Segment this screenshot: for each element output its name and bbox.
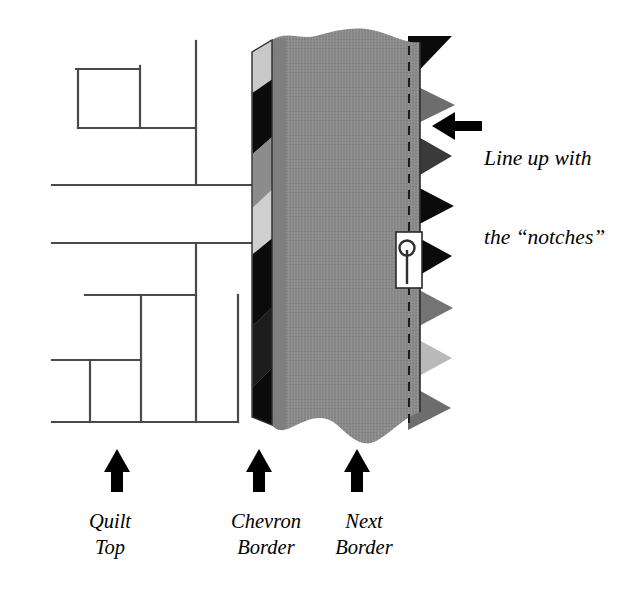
pin-group xyxy=(396,232,422,288)
label-arrows-group xyxy=(104,449,370,492)
callout-arrow-left-icon xyxy=(432,112,482,140)
arrow-up-quilt-top-icon xyxy=(104,449,130,492)
diagram-canvas: Line up with the “notches” Quilt Top Che… xyxy=(0,0,635,590)
label-next-border: Next Border xyxy=(300,508,428,560)
callout-note-line-1: Line up with xyxy=(484,145,605,171)
label-quilt-top: Quilt Top xyxy=(46,508,174,560)
arrow-up-chevron-border-icon xyxy=(246,449,272,492)
callout-note-line-2: the “notches” xyxy=(484,224,605,250)
callout-note: Line up with the “notches” xyxy=(484,93,605,303)
quilt-top-piecing xyxy=(52,41,252,422)
arrow-up-next-border-icon xyxy=(344,449,370,492)
next-border-shadow-edge xyxy=(272,38,286,430)
